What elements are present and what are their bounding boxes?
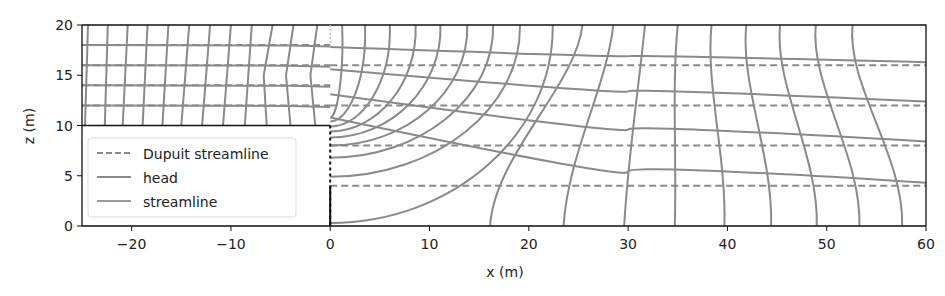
head-line: [143, 25, 148, 126]
legend-label-streamline: streamline: [143, 194, 217, 210]
streamline: [330, 47, 926, 62]
head-line: [815, 25, 859, 226]
head-line: [162, 25, 168, 126]
head-line: [85, 25, 88, 126]
y-tick-label: 0: [64, 218, 73, 234]
head-line: [310, 25, 317, 126]
x-tick-label: 30: [619, 236, 637, 252]
x-tick-label: 10: [421, 236, 439, 252]
y-axis-label: z (m): [21, 108, 37, 144]
streamline: [82, 45, 330, 47]
head-line: [181, 25, 189, 126]
x-tick-label: −10: [216, 236, 246, 252]
x-tick-label: 50: [818, 236, 836, 252]
head-line: [675, 25, 678, 226]
x-tick-label: 40: [718, 236, 736, 252]
flow-net-chart: −20−10010203040506005101520 Dupuit strea…: [0, 0, 945, 296]
x-axis-label: x (m): [486, 264, 523, 280]
head-line: [105, 25, 108, 126]
head-line: [245, 25, 252, 126]
y-tick-label: 15: [55, 67, 73, 83]
x-tick-label: 20: [520, 236, 538, 252]
x-tick-label: 60: [917, 236, 935, 252]
streamline: [330, 69, 926, 101]
head-line: [779, 25, 816, 226]
streamline: [82, 105, 330, 107]
legend-label-head: head: [143, 170, 178, 186]
y-tick-label: 5: [64, 168, 73, 184]
legend-label-dupuit: Dupuit streamline: [143, 146, 269, 162]
head-line: [746, 25, 772, 226]
head-line: [710, 25, 724, 226]
y-tick-label: 20: [55, 17, 73, 33]
head-line: [330, 25, 342, 117]
y-tick-label: 10: [55, 118, 73, 134]
x-tick-label: −20: [117, 236, 147, 252]
head-line: [852, 25, 902, 226]
legend: Dupuit streamline head streamline: [88, 138, 296, 217]
head-line: [223, 25, 231, 126]
x-tick-label: 0: [326, 236, 335, 252]
head-line: [264, 25, 273, 126]
head-line: [202, 25, 210, 126]
head-line: [286, 25, 294, 126]
head-line: [123, 25, 128, 126]
head-line: [330, 25, 493, 158]
